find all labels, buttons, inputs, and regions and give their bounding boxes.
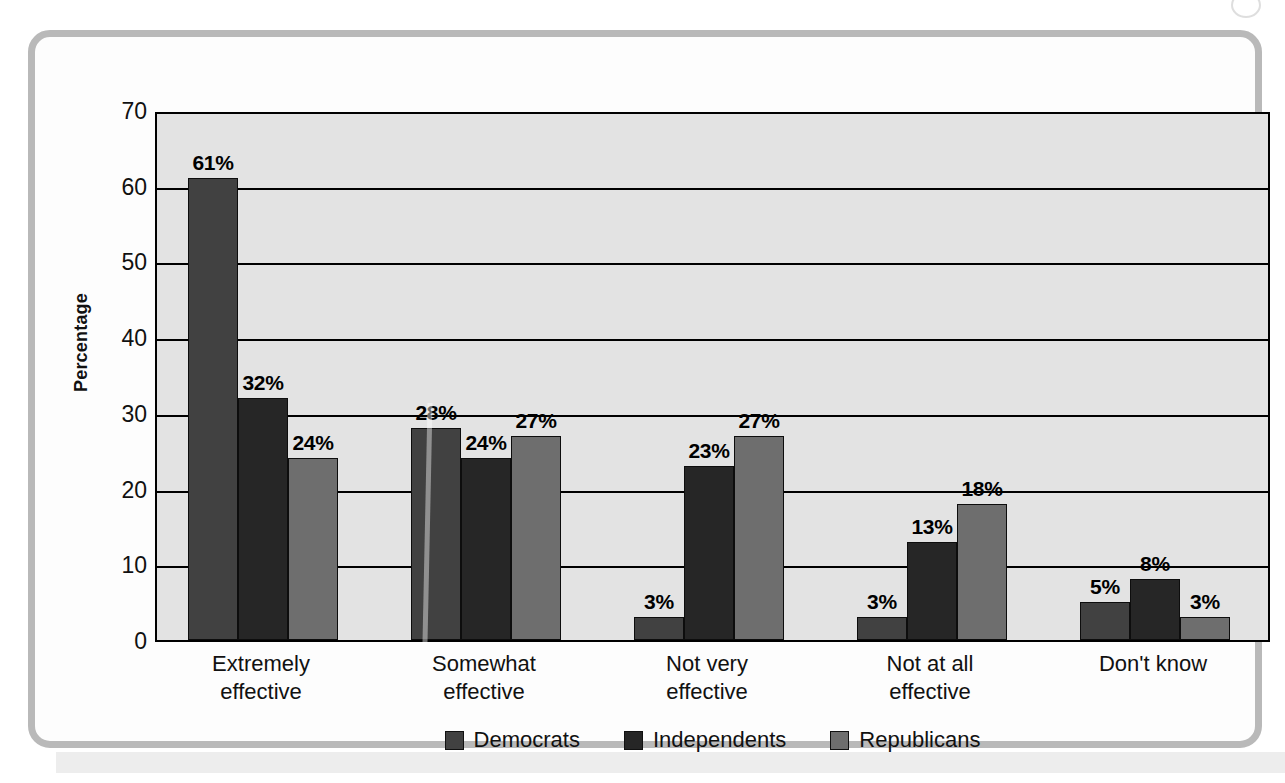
legend-label: Independents bbox=[653, 727, 786, 753]
x-axis-label-line1: Not at all bbox=[887, 651, 974, 676]
y-tick-label-70: 70 bbox=[103, 98, 147, 125]
y-axis-tick-labels: 706050403020100 bbox=[97, 112, 147, 642]
bar[interactable] bbox=[907, 542, 957, 640]
x-axis-label-line1: Somewhat bbox=[432, 651, 536, 676]
bar-group: 3%13%18% bbox=[857, 114, 1007, 640]
y-tick-label-40: 40 bbox=[103, 325, 147, 352]
legend-swatch-icon bbox=[830, 731, 849, 750]
bars-layer: 61%32%24%28%24%27%3%23%27%3%13%18%5%8%3% bbox=[157, 114, 1268, 640]
bar[interactable] bbox=[957, 504, 1007, 640]
legend-swatch-icon bbox=[624, 731, 643, 750]
bar[interactable] bbox=[411, 428, 461, 640]
x-axis-label-line2: effective bbox=[374, 678, 594, 706]
bar-value-label: 3% bbox=[1168, 590, 1242, 614]
bar-value-label: 61% bbox=[176, 151, 250, 175]
legend-label: Democrats bbox=[474, 727, 580, 753]
y-tick-label-50: 50 bbox=[103, 249, 147, 276]
bar[interactable] bbox=[188, 178, 238, 640]
bar-value-label: 27% bbox=[722, 409, 796, 433]
legend-item-democrats[interactable]: Democrats bbox=[445, 727, 580, 753]
bar-value-label: 18% bbox=[945, 477, 1019, 501]
x-axis-category-labels: ExtremelyeffectiveSomewhateffectiveNot v… bbox=[155, 650, 1270, 712]
bar[interactable] bbox=[288, 458, 338, 640]
bar-group: 61%32%24% bbox=[188, 114, 338, 640]
x-axis-label: Somewhateffective bbox=[374, 650, 594, 706]
x-axis-label: Don't know bbox=[1043, 650, 1263, 678]
bar-group: 3%23%27% bbox=[634, 114, 784, 640]
bar[interactable] bbox=[684, 466, 734, 640]
bar[interactable] bbox=[511, 436, 561, 640]
x-axis-label-line2: effective bbox=[151, 678, 371, 706]
y-tick-label-30: 30 bbox=[103, 401, 147, 428]
bar[interactable] bbox=[461, 458, 511, 640]
y-tick-label-10: 10 bbox=[103, 552, 147, 579]
legend-swatch-icon bbox=[445, 731, 464, 750]
x-axis-label-line1: Not very bbox=[666, 651, 748, 676]
legend-item-independents[interactable]: Independents bbox=[624, 727, 786, 753]
bar[interactable] bbox=[634, 617, 684, 640]
bar-group: 5%8%3% bbox=[1080, 114, 1230, 640]
x-axis-label-line2: effective bbox=[597, 678, 817, 706]
plot-area: 61%32%24%28%24%27%3%23%27%3%13%18%5%8%3% bbox=[155, 112, 1270, 642]
bar-value-label: 24% bbox=[276, 431, 350, 455]
bar[interactable] bbox=[1180, 617, 1230, 640]
bar[interactable] bbox=[1080, 602, 1130, 640]
bar[interactable] bbox=[857, 617, 907, 640]
bar-value-label: 8% bbox=[1118, 552, 1192, 576]
x-axis-label: Not at alleffective bbox=[820, 650, 1040, 706]
y-tick-label-20: 20 bbox=[103, 477, 147, 504]
bar-group: 28%24%27% bbox=[411, 114, 561, 640]
x-axis-label: Not veryeffective bbox=[597, 650, 817, 706]
bar-value-label: 28% bbox=[399, 401, 473, 425]
x-axis-label-line2: effective bbox=[820, 678, 1040, 706]
y-tick-label-0: 0 bbox=[103, 628, 147, 655]
bar-value-label: 32% bbox=[226, 371, 300, 395]
bar[interactable] bbox=[734, 436, 784, 640]
y-axis-title: Percentage bbox=[71, 273, 92, 413]
legend-label: Republicans bbox=[859, 727, 980, 753]
legend-item-republicans[interactable]: Republicans bbox=[830, 727, 980, 753]
x-axis-label-line1: Extremely bbox=[212, 651, 310, 676]
chart-frame: Percentage 706050403020100 61%32%24%28%2… bbox=[28, 30, 1262, 748]
page-background-band-lower bbox=[0, 773, 1285, 783]
y-tick-label-60: 60 bbox=[103, 174, 147, 201]
bar-value-label: 27% bbox=[499, 409, 573, 433]
x-axis-label: Extremelyeffective bbox=[151, 650, 371, 706]
scan-artifact-arc bbox=[1231, 0, 1261, 18]
legend: DemocratsIndependentsRepublicans bbox=[155, 723, 1270, 757]
x-axis-label-line1: Don't know bbox=[1099, 651, 1207, 676]
